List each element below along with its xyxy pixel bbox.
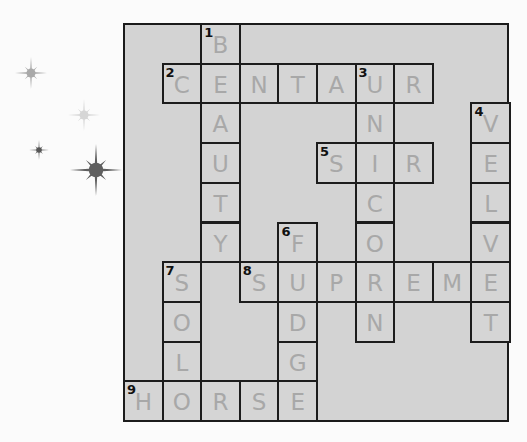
cell-letter: Y (202, 231, 239, 257)
cell-letter: N (357, 310, 394, 336)
crossword-cell[interactable]: 8S (239, 261, 280, 303)
cell-letter: R (357, 270, 394, 296)
star-small-dark-icon (27, 138, 51, 162)
cell-letter: H (125, 389, 162, 415)
crossword-cell[interactable]: 7S (162, 261, 203, 303)
cell-letter: U (357, 72, 394, 98)
crossword-cell[interactable]: I (355, 142, 396, 184)
crossword-cell[interactable]: U (200, 142, 241, 184)
crossword-grid: 1B2CENTA3URAN4VU5SIRETCLY6FOV7S8SUPREMEO… (123, 23, 509, 422)
crossword-cell[interactable]: D (277, 301, 318, 343)
crossword-cell[interactable]: N (239, 63, 280, 105)
crossword-cell[interactable]: N (355, 102, 396, 144)
crossword-cell[interactable]: Y (200, 222, 241, 264)
crossword-cell[interactable]: L (470, 182, 511, 224)
crossword-cell[interactable]: N (355, 301, 396, 343)
cell-letter: O (164, 310, 201, 336)
crossword-cell[interactable]: 6F (277, 222, 318, 264)
cell-letter: S (241, 270, 278, 296)
crossword-cell[interactable]: R (200, 380, 241, 422)
cell-letter: R (395, 72, 432, 98)
crossword-cell[interactable]: R (393, 63, 434, 105)
cell-letter: G (279, 350, 316, 376)
crossword-cell[interactable]: O (162, 301, 203, 343)
cell-letter: S (241, 389, 278, 415)
crossword-cell[interactable]: 2C (162, 63, 203, 105)
cell-letter: S (164, 270, 201, 296)
cell-letter: I (357, 151, 394, 177)
cell-letter: L (472, 191, 509, 217)
cell-letter: D (279, 310, 316, 336)
crossword-cell[interactable]: E (470, 261, 511, 303)
cell-letter: V (472, 111, 509, 137)
crossword-cell[interactable]: U (277, 261, 318, 303)
cell-letter: P (318, 270, 355, 296)
crossword-cell[interactable]: S (239, 380, 280, 422)
crossword-cell[interactable]: P (316, 261, 357, 303)
cell-letter: N (241, 72, 278, 98)
crossword-cell[interactable]: E (393, 261, 434, 303)
cell-letter: A (202, 111, 239, 137)
star-light-icon (66, 97, 102, 133)
cell-letter: B (202, 32, 239, 58)
cell-letter: S (318, 151, 355, 177)
crossword-cell[interactable]: L (162, 341, 203, 383)
cell-letter: M (434, 270, 471, 296)
crossword-cell[interactable]: G (277, 341, 318, 383)
crossword-cell[interactable]: 4V (470, 102, 511, 144)
crossword-cell[interactable]: O (355, 222, 396, 264)
crossword-cell[interactable]: C (355, 182, 396, 224)
cell-letter: U (279, 270, 316, 296)
cell-letter: E (395, 270, 432, 296)
cell-letter: N (357, 111, 394, 137)
cell-letter: E (472, 151, 509, 177)
cell-letter: R (202, 389, 239, 415)
cell-letter: E (202, 72, 239, 98)
cell-letter: R (395, 151, 432, 177)
cell-letter: E (472, 270, 509, 296)
crossword-cell[interactable]: O (162, 380, 203, 422)
cell-letter: T (279, 72, 316, 98)
cell-letter: F (279, 231, 316, 257)
star-medium-icon (13, 55, 49, 91)
crossword-cell[interactable]: M (432, 261, 473, 303)
crossword-cell[interactable]: 1B (200, 23, 241, 65)
crossword-cell[interactable]: E (277, 380, 318, 422)
crossword-cell[interactable]: 5S (316, 142, 357, 184)
cell-letter: T (472, 310, 509, 336)
cell-letter: T (202, 191, 239, 217)
crossword-cell[interactable]: 3U (355, 63, 396, 105)
cell-letter: V (472, 231, 509, 257)
star-large-dark-icon (68, 142, 124, 198)
cell-letter: O (164, 389, 201, 415)
crossword-cell[interactable]: V (470, 222, 511, 264)
crossword-cell[interactable]: R (355, 261, 396, 303)
crossword-cell[interactable]: E (200, 63, 241, 105)
cell-letter: O (357, 231, 394, 257)
cell-letter: C (164, 72, 201, 98)
cell-letter: E (279, 389, 316, 415)
crossword-cell[interactable]: 9H (123, 380, 164, 422)
crossword-cell[interactable]: A (200, 102, 241, 144)
crossword-cell[interactable]: T (200, 182, 241, 224)
crossword-cell[interactable]: A (316, 63, 357, 105)
crossword-cell[interactable]: T (470, 301, 511, 343)
cell-letter: A (318, 72, 355, 98)
crossword-cell[interactable]: E (470, 142, 511, 184)
cell-letter: L (164, 350, 201, 376)
cell-letter: U (202, 151, 239, 177)
crossword-cell[interactable]: R (393, 142, 434, 184)
crossword-cell[interactable]: T (277, 63, 318, 105)
cell-letter: C (357, 191, 394, 217)
